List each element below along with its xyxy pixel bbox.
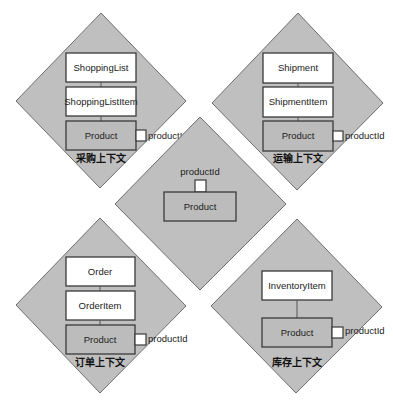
product-label: Product <box>281 327 314 338</box>
productid-port <box>195 180 206 192</box>
context-title: 运输上下文 <box>273 152 324 164</box>
context-title: 采购上下文 <box>75 152 127 164</box>
product-label: Product <box>184 201 217 212</box>
productid-label: productId <box>148 333 188 344</box>
shipment-label: Shipment <box>278 62 318 73</box>
shoppinglist-label: ShoppingList <box>74 62 129 73</box>
product-label: Product <box>84 334 117 345</box>
context-title: 订单上下文 <box>75 356 126 368</box>
productid-label: productId <box>180 166 220 177</box>
productid-port <box>332 327 343 338</box>
order-label: Order <box>88 266 112 277</box>
productid-label: productId <box>345 325 385 336</box>
shipmentitem-label: ShipmentItem <box>269 96 328 107</box>
productid-label: productId <box>345 130 385 141</box>
product-label: Product <box>282 130 315 141</box>
productid-port <box>333 131 343 141</box>
productid-port <box>136 130 146 141</box>
orderitem-label: OrderItem <box>79 300 122 311</box>
shoppinglistitem-label: ShoppingListItem <box>64 96 137 107</box>
inventoryitem-label: InventoryItem <box>268 280 326 291</box>
context-title: 库存上下文 <box>272 356 323 368</box>
context-map-diagram: ShoppingList ShoppingListItem Product pr… <box>0 0 393 403</box>
productid-port <box>135 334 146 345</box>
product-label: Product <box>85 130 118 141</box>
